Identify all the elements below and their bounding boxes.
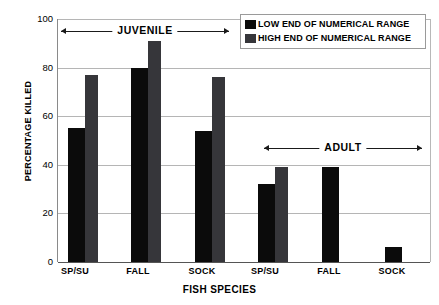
x-tick-juvenile-spsu: SP/SU — [61, 266, 89, 276]
gridline-40 — [58, 165, 430, 166]
bar-group-juvenile-sock — [195, 77, 225, 262]
legend-item-high-end: HIGH END OF NUMERICAL RANGE — [245, 31, 422, 45]
gridline-80 — [58, 68, 430, 69]
juvenile-arrow-left-icon — [61, 28, 66, 34]
chart-legend: LOW END OF NUMERICAL RANGE HIGH END OF N… — [240, 14, 426, 49]
bar-chart: PERCENTAGE KILLED 100 80 60 40 20 0 — [0, 0, 439, 305]
bar-low-adult-fall — [322, 167, 339, 262]
y-tick-20: 20 — [27, 209, 53, 219]
y-tick-0: 0 — [27, 257, 53, 267]
annotation-adult: ADULT — [264, 140, 422, 156]
bar-group-adult-fall — [322, 167, 339, 262]
y-axis-tick-labels: 100 80 60 40 20 0 — [25, 0, 53, 305]
juvenile-arrow-right-icon — [224, 28, 229, 34]
bar-low-juvenile-fall — [131, 68, 148, 262]
bar-low-adult-sock — [385, 247, 402, 262]
x-tick-juvenile-fall: FALL — [126, 266, 149, 276]
bar-group-juvenile-spsu — [68, 75, 98, 262]
gridline-20 — [58, 213, 430, 214]
adult-arrow-left-icon — [264, 145, 269, 151]
x-axis-title: FISH SPECIES — [0, 284, 439, 295]
x-tick-adult-sock: SOCK — [379, 266, 406, 276]
bar-high-juvenile-spsu — [85, 75, 98, 262]
bar-group-adult-sock — [385, 247, 402, 262]
y-tick-80: 80 — [27, 63, 53, 73]
bar-low-juvenile-sock — [195, 131, 212, 262]
x-tick-adult-fall: FALL — [317, 266, 340, 276]
juvenile-label: JUVENILE — [112, 23, 177, 38]
legend-swatch-low-end — [245, 20, 256, 29]
y-tick-40: 40 — [27, 160, 53, 170]
bar-high-adult-spsu — [275, 167, 288, 262]
bar-low-juvenile-spsu — [68, 128, 85, 262]
adult-arrow-right-icon — [417, 145, 422, 151]
legend-swatch-high-end — [245, 34, 256, 43]
x-tick-juvenile-sock: SOCK — [189, 266, 216, 276]
adult-label: ADULT — [319, 140, 366, 155]
legend-item-low-end: LOW END OF NUMERICAL RANGE — [245, 17, 422, 31]
legend-label-high-end: HIGH END OF NUMERICAL RANGE — [258, 33, 411, 43]
x-axis-baseline — [58, 262, 430, 263]
y-tick-100: 100 — [27, 14, 53, 24]
x-tick-adult-spsu: SP/SU — [251, 266, 279, 276]
bar-group-adult-spsu — [258, 167, 288, 262]
plot-area: JUVENILE ADULT — [57, 19, 431, 262]
bar-high-juvenile-sock — [212, 77, 225, 262]
bar-low-adult-spsu — [258, 184, 275, 262]
annotation-juvenile: JUVENILE — [61, 23, 229, 39]
legend-label-low-end: LOW END OF NUMERICAL RANGE — [258, 19, 409, 29]
bar-group-juvenile-fall — [131, 41, 161, 262]
gridline-60 — [58, 116, 430, 117]
y-tick-60: 60 — [27, 111, 53, 121]
bar-high-juvenile-fall — [148, 41, 161, 262]
